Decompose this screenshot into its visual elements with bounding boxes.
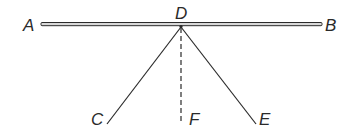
label-d: D [175,4,187,23]
label-a: A [22,16,34,35]
label-e: E [259,110,271,129]
label-f: F [189,110,201,129]
label-c: C [91,110,104,129]
label-b: B [325,16,336,35]
diagram-svg: A B D C F E [0,0,351,137]
segment-dc [107,27,181,124]
point-d [179,25,182,28]
geometry-diagram: A B D C F E [0,0,351,137]
